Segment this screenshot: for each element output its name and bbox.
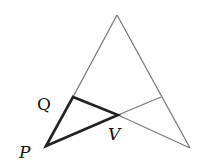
label-v: V (108, 124, 122, 144)
triangle-diagram: Q P V (0, 0, 203, 167)
label-p: P (18, 142, 31, 162)
segment-v-to-bottom-right (118, 115, 190, 148)
segment-v-to-r (118, 97, 161, 115)
label-q: Q (37, 94, 51, 114)
side-apex-to-bottom-right (117, 15, 190, 148)
side-apex-to-q (73, 15, 117, 97)
